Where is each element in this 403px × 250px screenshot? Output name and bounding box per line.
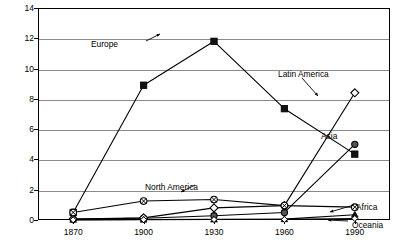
- y-tick-mark: [34, 38, 38, 39]
- y-tick-mark: [34, 159, 38, 160]
- y-tick-mark: [34, 190, 38, 191]
- y-tick-mark: [34, 69, 38, 70]
- series-annotation-north-america: North America: [145, 183, 198, 191]
- y-tick-mark: [34, 8, 38, 9]
- gridline: [39, 191, 389, 192]
- y-tick-mark: [34, 129, 38, 130]
- series-annotation-oceania: Oceania: [352, 221, 383, 229]
- y-tick-mark: [34, 220, 38, 221]
- x-tick-label: 1960: [264, 227, 304, 237]
- gridline: [39, 70, 389, 71]
- x-tick-label: 1900: [124, 227, 164, 237]
- y-tick-label: 8: [14, 94, 34, 104]
- x-tick-mark: [214, 220, 215, 224]
- series-annotation-africa: Africa: [356, 203, 377, 211]
- x-tick-mark: [144, 220, 145, 224]
- series-annotation-latin-america: Latin America: [278, 70, 329, 78]
- chart-container: Foreign-born Residents (millions) 024681…: [0, 0, 403, 250]
- y-tick-label: 4: [14, 154, 34, 164]
- y-tick-label: 2: [14, 185, 34, 195]
- annotation-leader-line: [328, 220, 348, 221]
- series-annotation-europe: Europe: [91, 40, 118, 48]
- series-annotation-asia: Asia: [321, 132, 337, 140]
- y-tick-mark: [34, 99, 38, 100]
- y-tick-label: 14: [14, 3, 34, 13]
- y-tick-label: 0: [14, 215, 34, 225]
- y-tick-label: 12: [14, 33, 34, 43]
- x-tick-label: 1930: [194, 227, 234, 237]
- gridline: [39, 100, 389, 101]
- y-tick-label: 6: [14, 124, 34, 134]
- x-tick-mark: [284, 220, 285, 224]
- x-tick-label: 1870: [53, 227, 93, 237]
- gridline: [39, 160, 389, 161]
- x-tick-mark: [73, 220, 74, 224]
- y-tick-label: 10: [14, 64, 34, 74]
